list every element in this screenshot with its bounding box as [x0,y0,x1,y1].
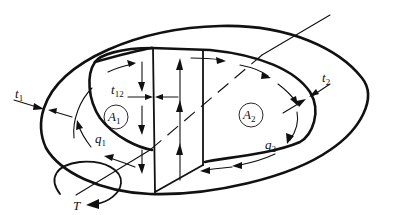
q2-web-arrowhead-3 [176,143,183,155]
t2-label: t2 [322,70,330,87]
q2-web-arrowhead-1 [176,58,183,70]
t1-arrowhead-right [48,108,57,114]
axis-dashed-segment [150,55,262,150]
q2-web-arrowhead-2 [176,100,183,112]
area-A2: A2 [239,103,263,127]
torque-arrowhead [86,199,99,209]
T-label: T [73,198,81,213]
q2-bottom-arrowhead-1 [232,162,242,169]
A2-label: A2 [242,107,255,124]
q1-web-arrowhead-1 [138,82,145,92]
cell-2-near-wall [152,48,315,162]
web-near-edge [153,48,155,192]
thickness-t12: t12 [111,82,178,100]
q2-bottom-arrowhead-2 [200,167,210,174]
t12-label: t12 [111,82,124,99]
q1-left-outer-arc [74,88,92,138]
q1-label: q1 [95,131,106,148]
t12-arrowhead-right [155,94,163,100]
q2-top-arrowhead-2 [261,72,271,79]
outer-wall-far-end [41,26,368,194]
q2-top-arrowhead-1 [216,57,226,64]
q1-web-arrowhead-3 [138,164,145,174]
q1-web-arrowhead-2 [138,125,145,135]
A1-label: A1 [107,109,120,126]
t12-arrowhead-left [145,94,153,100]
thickness-t2: t2 [283,70,330,113]
t1-arrowhead-left [33,103,44,110]
q1-bottom-arrowhead [104,154,114,161]
two-cell-torsion-diagram: t1 t12 t2 A1 A2 q1 q2 T [0,0,397,215]
q1-top-arrowhead [127,60,136,67]
q1-left-arrowhead [76,120,83,130]
web-bottom-edge [155,165,203,192]
t1-label: t1 [15,86,23,103]
shear-flow-q2 [176,57,298,180]
area-A1: A1 [104,105,128,129]
q2-label: q2 [265,137,276,154]
t2-arrowhead-inner [296,99,306,107]
